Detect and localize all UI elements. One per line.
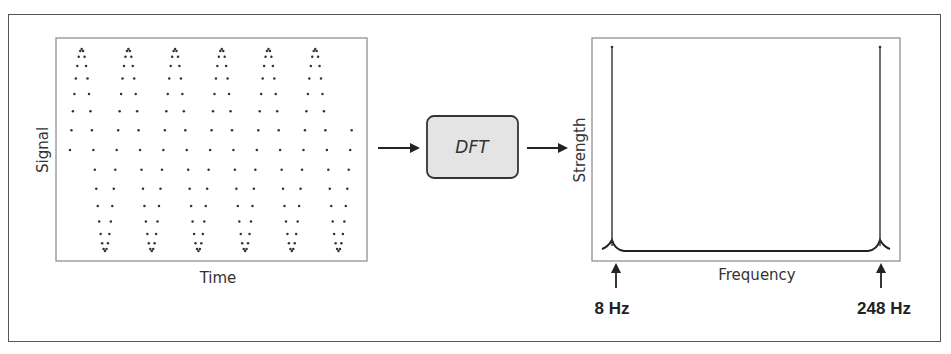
signal-sample-point [94,168,97,171]
signal-sample-point [155,233,158,236]
signal-sample-point [279,149,282,152]
signal-sample-point [180,77,183,80]
signal-sample-point [78,55,81,58]
signal-sample-point [349,149,352,152]
signal-sample-point [254,168,257,171]
signal-sample-point [98,220,101,223]
peak-2-annotation: 248 Hz [857,299,911,318]
signal-sample-point [347,168,350,171]
signal-plot-frame [56,38,367,261]
signal-sample-point [222,50,225,53]
signal-sample-point [117,129,120,132]
signal-sample-point [86,77,89,80]
spectrum-peak-tip [879,46,882,49]
signal-sample-point [164,129,167,132]
signal-sample-point [326,149,329,152]
signal-sample-point [175,50,178,53]
signal-sample-point [320,77,323,80]
signal-sample-point [118,110,121,113]
signal-sample-point [286,233,289,236]
signal-sample-point [302,149,305,152]
strength-axis-label: Strength [571,118,589,183]
signal-sample-point [285,220,288,223]
signal-sample-point [184,129,187,132]
signal-sample-point [318,65,321,68]
signal-sample-point [168,77,171,80]
signal-sample-point [331,220,334,223]
signal-sample-point [139,149,142,152]
signal-sample-point [169,65,172,68]
signal-sample-point [161,168,164,171]
signal-sample-point [69,149,72,152]
signal-sample-point [162,149,165,152]
signal-sample-point [108,233,111,236]
spectrum-peak-tip [611,46,614,49]
signal-sample-point [218,55,221,58]
signal-sample-point [85,65,88,68]
signal-sample-point [177,55,180,58]
signal-sample-point [153,242,156,245]
signal-sample-point [210,129,213,132]
signal-sample-point [240,233,243,236]
signal-sample-point [288,242,291,245]
signal-sample-point [107,242,110,245]
signal-sample-point [277,129,280,132]
signal-sample-point [329,187,332,190]
signal-sample-point [73,93,76,96]
signal-sample-point [191,220,194,223]
signal-sample-point [152,248,155,251]
signal-sample-point [263,65,266,68]
signal-sample-point [212,110,215,113]
signal-sample-point [256,149,259,152]
signal-sample-point [343,220,346,223]
signal-sample-point [293,242,296,245]
signal-sample-point [237,205,240,208]
signal-sample-point [342,233,345,236]
signal-sample-point [130,55,133,58]
signal-sample-point [232,149,235,152]
signal-sample-point [234,168,237,171]
signal-sample-point [88,93,91,96]
signal-sample-point [207,168,210,171]
signal-sample-point [330,205,333,208]
signal-sample-point [132,65,135,68]
signal-sample-point [121,77,124,80]
signal-sample-point [89,110,92,113]
signal-sample-point [346,187,349,190]
frequency-axis-label: Frequency [718,266,796,284]
signal-sample-point [136,110,139,113]
signal-sample-point [269,50,272,53]
signal-sample-point [183,110,186,113]
signal-sample-point [223,55,226,58]
signal-sample-point [264,55,267,58]
signal-sample-point [231,129,234,132]
signal-sample-point [101,242,104,245]
signal-sample-point [188,187,191,190]
signal-sample-point [181,93,184,96]
signal-sample-point [167,93,170,96]
signal-sample-point [200,242,203,245]
signal-sample-point [270,55,273,58]
signal-sample-point [142,187,145,190]
signal-sample-point [199,248,202,251]
signal-sample-point [235,187,238,190]
time-axis-label: Time [199,269,237,287]
signal-sample-point [111,205,114,208]
signal-sample-point [194,242,197,245]
signal-sample-point [129,50,132,53]
signal-sample-point [305,110,308,113]
spectrum-plot-frame [592,38,900,261]
signal-sample-point [295,233,298,236]
signal-sample-point [99,233,102,236]
signal-sample-point [324,129,327,132]
signal-sample-point [91,129,94,132]
signal-sample-point [70,129,73,132]
diagram-canvas: Signal Time DFT Strength Frequency 8 Hz … [0,0,951,354]
signal-sample-point [276,110,279,113]
signal-sample-point [307,93,310,96]
signal-sample-point [345,205,348,208]
signal-sample-point [193,233,196,236]
signal-sample-point [283,205,286,208]
signal-sample-point [72,110,75,113]
signal-sample-point [253,187,256,190]
